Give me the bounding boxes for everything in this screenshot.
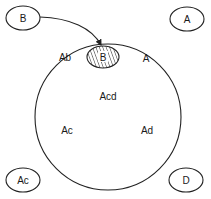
label-ac: Ac [17,175,29,186]
region-label-ac: Ac [61,125,73,136]
outer-node-ac: Ac [6,168,40,192]
label-inner-b: B [100,52,107,63]
label-b: B [20,13,27,24]
outer-node-b: B [6,6,40,30]
region-label-acd: Acd [99,91,116,102]
region-label-a: A [143,53,150,64]
diagram-canvas: B A Ac D B Ab A Acd Ac Ad [0,0,211,199]
arrow-b-to-inner-b [40,17,101,45]
region-label-ad: Ad [141,125,153,136]
region-label-ab: Ab [59,52,72,63]
label-d: D [182,175,189,186]
label-a: A [184,14,191,25]
outer-node-d: D [169,168,203,192]
inner-node-b-hatched: B [87,46,119,68]
outer-node-a: A [170,7,204,31]
